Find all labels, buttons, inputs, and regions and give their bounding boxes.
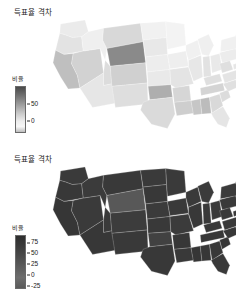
figure-bottom: 득표율 격차 비율 75 50 25 0 -25 [0,147,240,294]
state-ne [146,201,170,219]
state-tx [141,97,175,128]
state-co [110,63,147,87]
state-md [233,209,236,217]
state-in [203,203,211,224]
colorbar-tick: 0 [27,270,35,277]
figure-top: 득표율 격차 비율 50 0 [0,0,240,147]
state-ia [167,51,188,69]
state-al [200,244,211,261]
tick-dash [27,285,30,286]
state-shapes [53,167,236,276]
state-md [233,62,236,70]
state-sd [143,38,167,57]
state-ok [148,232,172,247]
state-ia [167,198,188,216]
state-ks [147,70,171,87]
state-oh [210,54,222,73]
colorbar-label: 비율 [12,223,24,232]
tick-dash [27,253,30,254]
state-wv [220,207,233,220]
state-shapes [53,20,236,129]
us-choropleth-map-top [40,14,236,136]
state-nd [141,22,167,41]
state-la [174,101,193,116]
colorbar-tick: 50 [27,99,38,106]
tick-dash [27,103,30,104]
colorbar-gradient [15,86,26,133]
state-ar [172,233,191,250]
state-ne [146,54,170,72]
us-choropleth-map-bottom [40,161,236,283]
colorbar-tick: 50 [27,249,38,256]
colorbar-gradient [15,235,26,289]
state-sd [143,185,167,204]
state-mn [166,169,186,197]
tick-dash [27,242,30,243]
tick-dash [27,120,30,121]
state-al [200,97,211,114]
state-ok [148,85,172,100]
colorbar-tick: 75 [27,238,38,245]
colorbar-label: 비율 [12,74,24,83]
state-oh [210,201,222,220]
state-mn [166,22,186,50]
state-nd [141,169,167,188]
colorbar-tick: 0 [27,116,35,123]
colorbar-tick: -25 [27,281,40,288]
tick-dash [27,264,30,265]
state-tx [141,244,175,275]
tick-dash [27,274,30,275]
state-la [174,248,193,263]
state-ks [147,217,171,234]
state-in [203,56,211,77]
state-wv [220,60,233,73]
colorbar-tick: 25 [27,260,38,267]
state-ar [172,86,191,103]
state-co [110,210,147,234]
